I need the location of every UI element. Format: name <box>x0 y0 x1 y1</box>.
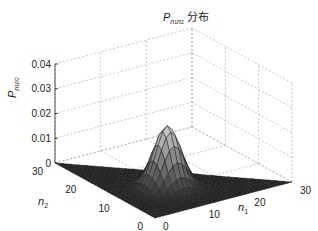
z-axis-label: Pn1n2 <box>6 77 20 98</box>
svg-text:0: 0 <box>45 158 51 169</box>
svg-text:0.02: 0.02 <box>32 108 52 119</box>
svg-text:20: 20 <box>65 184 77 195</box>
chart-title: Pn1n2 分布 <box>163 8 209 25</box>
svg-text:30: 30 <box>32 166 44 177</box>
svg-text:0: 0 <box>163 221 169 231</box>
svg-text:20: 20 <box>254 197 266 208</box>
svg-text:10: 10 <box>99 203 111 214</box>
svg-text:0: 0 <box>137 221 143 231</box>
axes <box>55 64 58 163</box>
y-axis-label: n2 <box>38 196 48 209</box>
svg-text:0.01: 0.01 <box>32 133 52 144</box>
svg-text:10: 10 <box>209 209 221 220</box>
svg-text:0.04: 0.04 <box>32 59 52 70</box>
svg-text:0.03: 0.03 <box>32 83 52 94</box>
x-axis-label: n1 <box>238 202 248 215</box>
svg-text:30: 30 <box>300 185 312 196</box>
